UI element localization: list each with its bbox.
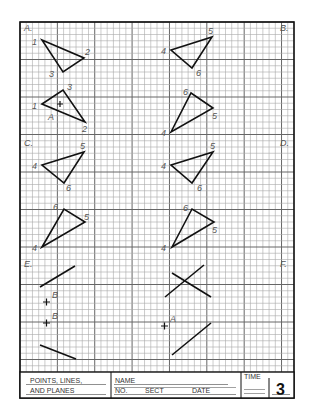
graph-paper-grid — [20, 22, 294, 372]
line-segment — [172, 323, 211, 355]
section-label-b: B. — [280, 23, 289, 33]
title-block: POINTS, LINES, AND PLANES NAME NO. SECT … — [20, 372, 294, 398]
vertex-label: 5 — [212, 225, 218, 235]
section-label: SECT — [145, 387, 164, 394]
vertex-label: 4 — [161, 46, 166, 56]
point-label: A — [47, 112, 54, 122]
vertex-label: 2 — [84, 47, 90, 57]
point-marker — [43, 320, 50, 327]
vertex-label: 6 — [53, 202, 58, 212]
problem-e-figures: B B — [40, 266, 76, 359]
point-label: B — [52, 311, 58, 321]
vertex-label: 2 — [81, 124, 87, 134]
vertex-label: 5 — [210, 141, 216, 151]
vertex-label: 4 — [161, 161, 166, 171]
vertex-label: 5 — [80, 141, 86, 151]
triangle-shape — [42, 40, 84, 72]
triangle-shape — [171, 37, 212, 68]
vertex-label: 3 — [49, 69, 54, 79]
point-label: B — [52, 290, 58, 300]
section-label-f: F. — [280, 259, 287, 269]
problem-c-triangle-top: 4 5 6 — [32, 141, 86, 193]
vertex-label: 4 — [32, 161, 37, 171]
vertex-label: 6 — [66, 183, 71, 193]
section-label-d: D. — [280, 138, 289, 148]
point-marker — [43, 299, 50, 306]
section-label-a: A. — [23, 23, 33, 33]
vertex-label: 4 — [32, 243, 37, 253]
vertex-label: 4 — [161, 243, 166, 253]
vertex-label: 1 — [32, 101, 37, 111]
title-line-2: AND PLANES — [30, 387, 75, 394]
point-label: A — [169, 314, 176, 324]
date-label: DATE — [192, 387, 210, 394]
problem-a-triangle-bottom: 1 2 3 A — [32, 82, 87, 134]
vertex-label: 3 — [67, 82, 72, 92]
vertex-label: 6 — [197, 183, 202, 193]
section-label-c: C. — [24, 138, 33, 148]
vertex-label: 5 — [84, 212, 90, 222]
worksheet-sheet: A. B. C. D. E. F. 1 2 3 1 2 3 A 4 5 6 4 … — [0, 0, 309, 414]
vertex-label: 6 — [183, 87, 188, 97]
vertex-label: 6 — [183, 203, 188, 213]
name-label: NAME — [115, 377, 136, 384]
number-label: NO. — [115, 387, 128, 394]
time-label: TIME — [244, 373, 261, 380]
vertex-label: 6 — [196, 68, 201, 78]
problem-a-triangle-top: 1 2 3 — [32, 37, 90, 79]
problem-b-triangle-top: 4 5 6 — [161, 26, 214, 78]
section-label-e: E. — [24, 259, 33, 269]
vertex-label: 1 — [32, 37, 37, 47]
point-marker — [57, 101, 63, 107]
title-line-1: POINTS, LINES, — [30, 377, 82, 384]
sheet-number: 3 — [276, 381, 285, 398]
vertex-label: 4 — [161, 128, 166, 138]
